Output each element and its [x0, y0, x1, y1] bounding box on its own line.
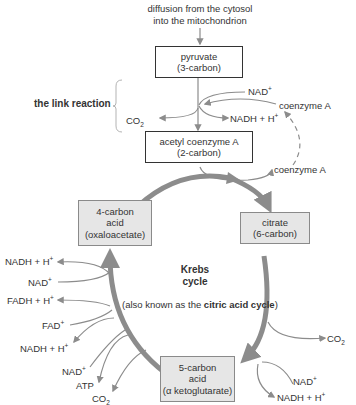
krebs-alt-name: (also known as the citric acid cycle): [122, 299, 278, 310]
left-nadh-2: NADH + H+: [20, 343, 68, 354]
acetyl-coa-box: acetyl coenzyme A (2-carbon): [145, 131, 253, 163]
coenzyme-recycle-arrow: [285, 112, 300, 165]
coenzyme-a-out-label: coenzyme A: [274, 164, 326, 175]
right-nadh: NADH + H+: [277, 392, 325, 403]
krebs-title-1: Krebs: [170, 264, 220, 275]
oxaloacetate-box: 4-carbon acid (oxaloacetate): [78, 200, 152, 246]
header-line-2: into the mitochondrion: [138, 15, 262, 26]
left-atp: ATP: [76, 380, 94, 391]
citrate-box: citrate (6-carbon): [240, 212, 310, 244]
krebs-title-2: cycle: [170, 276, 220, 287]
acetyl-coa-name: acetyl coenzyme A: [159, 136, 238, 148]
acetyl-coa-detail: (2-carbon): [177, 147, 221, 159]
link-nadh-label: NADH + H+: [230, 113, 278, 124]
ketoglutarate-box: 5-carbon acid (α ketoglutarate): [160, 356, 235, 402]
pyruvate-box: pyruvate (3-carbon): [155, 46, 243, 78]
left-fadh: FADH + H+: [7, 295, 54, 306]
left-nad-1: NAD+: [28, 277, 52, 288]
pyruvate-name: pyruvate: [181, 51, 217, 63]
header-line-1: diffusion from the cytosol: [138, 3, 262, 14]
right-co2: CO2: [327, 333, 345, 344]
pyruvate-detail: (3-carbon): [177, 62, 221, 74]
left-nadh-1: NADH + H+: [5, 256, 53, 267]
link-co2-label: CO2: [126, 115, 144, 126]
left-nad-2: NAD+: [62, 366, 86, 377]
link-reaction-bracket: [113, 80, 122, 132]
link-coenzyme-a-in-label: coenzyme A: [279, 100, 331, 111]
link-reaction-label: the link reaction: [34, 98, 111, 109]
left-fad: FAD+: [42, 320, 64, 331]
right-nad: NAD+: [293, 376, 317, 387]
link-nad-label: NAD+: [248, 86, 272, 97]
left-co2: CO2: [92, 393, 110, 404]
